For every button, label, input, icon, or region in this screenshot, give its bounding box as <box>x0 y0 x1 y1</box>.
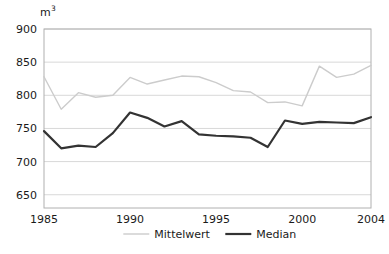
x-tick-label: 2000 <box>288 213 316 226</box>
x-tick-label: 1995 <box>202 213 230 226</box>
chart-legend: MittelwertMedian <box>123 228 296 241</box>
legend-label-mittelwert: Mittelwert <box>154 228 210 241</box>
x-tick-label: 1990 <box>116 213 144 226</box>
gridline-group <box>44 29 371 195</box>
plot-area-border <box>44 29 371 208</box>
y-tick-label: 700 <box>16 156 37 169</box>
legend-label-median: Median <box>256 228 296 241</box>
x-tick-label: 1985 <box>30 213 58 226</box>
y-tick-label: 800 <box>16 89 37 102</box>
series-line-mittelwert <box>44 65 371 109</box>
y-tick-label: 850 <box>16 56 37 69</box>
y-axis-tick-labels: 650700750800850900 <box>16 23 37 202</box>
plot-border <box>44 29 371 208</box>
line-chart-plot: 650700750800850900 19851990199520002004 … <box>0 0 389 254</box>
series-line-group <box>44 65 371 148</box>
y-tick-label: 750 <box>16 122 37 135</box>
y-tick-label: 900 <box>16 23 37 36</box>
x-axis-tick-labels: 19851990199520002004 <box>30 213 385 226</box>
x-tick-label: 2004 <box>357 213 385 226</box>
series-line-median <box>44 113 371 149</box>
chart-container: m3 650700750800850900 198519901995200020… <box>0 0 389 254</box>
y-tick-label: 650 <box>16 189 37 202</box>
